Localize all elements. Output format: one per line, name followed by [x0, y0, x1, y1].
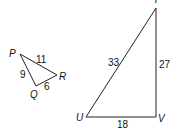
triangle-tuv — [86, 8, 156, 117]
vertex-r: R — [59, 71, 66, 82]
vertex-u: U — [76, 112, 84, 123]
side-pq-length: 9 — [20, 69, 26, 80]
side-uv-length: 18 — [117, 119, 129, 130]
diagram-svg: P R Q 11 9 6 T U V 33 27 18 — [0, 0, 174, 134]
side-qr-length: 6 — [44, 81, 50, 92]
vertex-t: T — [153, 0, 160, 5]
side-pr-length: 11 — [36, 54, 47, 65]
side-tu-length: 33 — [108, 57, 120, 68]
vertex-q: Q — [30, 89, 38, 100]
vertex-p: P — [9, 48, 16, 59]
vertex-v: V — [158, 113, 166, 124]
side-tv-length: 27 — [159, 59, 171, 70]
similar-triangles-diagram: P R Q 11 9 6 T U V 33 27 18 — [0, 0, 174, 134]
